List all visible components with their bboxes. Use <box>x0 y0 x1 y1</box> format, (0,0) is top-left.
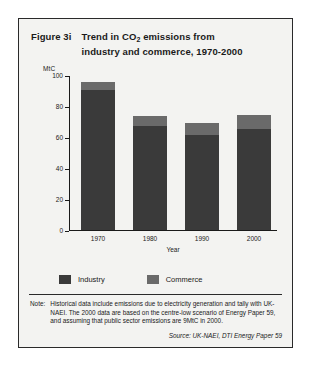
bar-segment-industry[interactable] <box>237 129 271 230</box>
bar-group[interactable]: 1980 <box>133 116 167 229</box>
y-axis-tick <box>65 169 69 170</box>
y-axis-tick-label: 60 <box>56 135 63 142</box>
y-axis-tick-label: 20 <box>56 197 63 204</box>
y-axis-tick <box>65 76 69 77</box>
legend-swatch-commerce <box>147 275 159 284</box>
figure-note: Note: Historical data include emissions … <box>30 300 282 326</box>
bar-segment-commerce[interactable] <box>185 123 219 135</box>
bar-segment-commerce[interactable] <box>237 115 271 129</box>
y-axis-tick-label: 40 <box>56 166 63 173</box>
title-line-2-text: industry and commerce, 1970-2000 <box>82 46 243 57</box>
bar-segment-industry[interactable] <box>185 135 219 230</box>
chart-legend: IndustryCommerce <box>59 275 274 284</box>
note-divider <box>29 294 282 295</box>
x-axis-line <box>69 230 277 231</box>
chart-axes: 020406080100 1970198019902000 Year <box>69 76 277 231</box>
x-axis-tick-label: 1990 <box>195 235 209 242</box>
title-text-part2: emissions from <box>140 31 214 42</box>
note-label: Note: <box>30 300 45 309</box>
legend-item-industry[interactable]: Industry <box>59 275 105 284</box>
x-axis-tick-label: 1970 <box>91 235 105 242</box>
legend-swatch-industry <box>59 275 71 284</box>
bar-group[interactable]: 2000 <box>237 115 271 230</box>
y-axis-tick <box>65 107 69 108</box>
y-axis-tick <box>65 200 69 201</box>
bar-segment-industry[interactable] <box>81 90 115 230</box>
figure-source: Source: UK-NAEI, DTI Energy Paper 59 <box>169 332 282 339</box>
page-title: Trend in CO2 emissions from industry and… <box>82 31 243 59</box>
x-axis-tick-label: 2000 <box>247 235 261 242</box>
bar-group[interactable]: 1990 <box>185 123 219 230</box>
note-text: Historical data include emissions due to… <box>50 300 282 326</box>
y-axis-tick-label: 80 <box>56 104 63 111</box>
bar-segment-commerce[interactable] <box>81 82 115 90</box>
bar-group[interactable]: 1970 <box>81 82 115 229</box>
y-axis-tick <box>65 231 69 232</box>
figure-panel: Figure 3i Trend in CO2 emissions from in… <box>18 18 293 348</box>
y-axis-tick <box>65 138 69 139</box>
legend-label: Industry <box>78 275 105 284</box>
y-axis-tick-label: 0 <box>59 228 63 235</box>
title-text-part1: Trend in CO <box>82 31 137 42</box>
y-axis-line <box>69 76 70 231</box>
y-axis-tick-label: 100 <box>52 73 63 80</box>
figure-title-block: Figure 3i Trend in CO2 emissions from in… <box>31 31 282 59</box>
legend-label: Commerce <box>166 275 203 284</box>
x-axis-tick-label: 1980 <box>143 235 157 242</box>
chart-plot-area: MtC 020406080100 1970198019902000 Year <box>29 65 284 265</box>
x-axis-title: Year <box>69 246 277 253</box>
figure-number-label: Figure 3i <box>31 31 72 42</box>
bar-segment-industry[interactable] <box>133 126 167 230</box>
legend-item-commerce[interactable]: Commerce <box>147 275 203 284</box>
bar-segment-commerce[interactable] <box>133 116 167 125</box>
